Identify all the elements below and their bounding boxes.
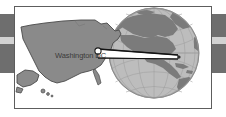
washington-dc-label: Washington DC (55, 51, 106, 61)
figure-canvas: Washington DC (0, 0, 226, 117)
globe-south-america (177, 77, 197, 98)
map-globe-illustration (15, 7, 211, 108)
globe-target-marker (177, 55, 180, 58)
hawaii-inset (41, 89, 53, 97)
illustration-panel: Washington DC (14, 6, 212, 109)
alaska-aleutians (16, 87, 23, 93)
alaska-inset (17, 70, 39, 87)
us-florida (93, 69, 101, 85)
